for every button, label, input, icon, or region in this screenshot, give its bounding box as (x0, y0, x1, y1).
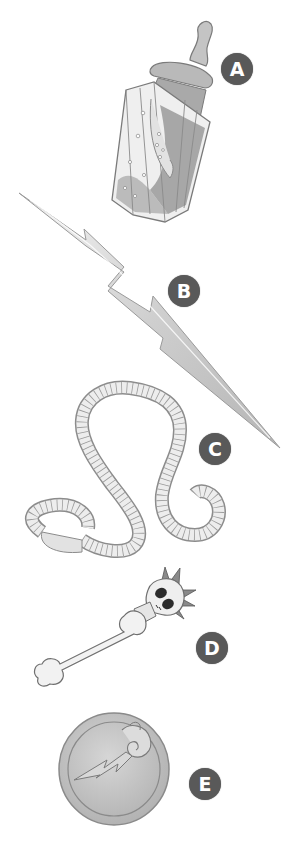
coin-icon (59, 713, 169, 825)
badge-c: C (199, 433, 231, 465)
bottle-flask-icon (112, 22, 213, 222)
badge-a: A (221, 53, 253, 85)
skull-bone-club-icon (35, 567, 196, 686)
lightning-bolt-icon (19, 193, 280, 448)
measuring-tape-icon (32, 388, 219, 553)
badge-d: D (196, 632, 228, 664)
badge-b: B (168, 275, 200, 307)
item-illustrations (0, 0, 306, 855)
badge-e: E (189, 768, 221, 800)
